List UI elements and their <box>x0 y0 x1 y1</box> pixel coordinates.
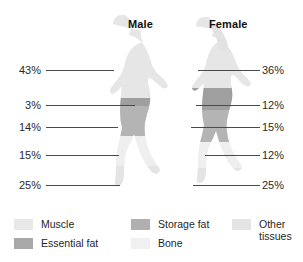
male-percent-other-tissues: 25% <box>7 180 41 191</box>
leader-line-male-muscle <box>46 70 114 71</box>
male-percent-essential-fat: 3% <box>7 100 41 111</box>
legend-item-bone[interactable]: Bone <box>131 237 183 249</box>
leader-line-female-storage-fat <box>191 127 260 128</box>
figure-title-male: Male <box>128 18 153 30</box>
leader-line-female-bone <box>205 155 260 156</box>
figure-title-female: Female <box>209 18 248 30</box>
leader-line-female-muscle <box>198 70 260 71</box>
legend-label-essential-fat: Essential fat <box>41 237 98 249</box>
swatch-bone-icon <box>131 238 150 249</box>
legend-label-muscle: Muscle <box>41 218 74 230</box>
swatch-essential-fat-icon <box>14 238 33 249</box>
male-figure <box>80 0 190 215</box>
legend-label-storage-fat: Storage fat <box>158 218 209 230</box>
swatch-muscle-icon <box>14 219 33 230</box>
body-composition-infographic: Male Female 43% 3% 14% 15% 25% 36% 12% 1… <box>0 0 303 262</box>
legend: Muscle Essential fat Storage fat Bone Ot… <box>0 216 303 262</box>
leader-line-male-essential-fat <box>46 105 135 106</box>
female-percent-bone: 12% <box>262 150 302 161</box>
runner-silhouettes <box>0 0 303 215</box>
swatch-other-tissues-icon <box>232 219 251 230</box>
leader-line-female-essential-fat <box>196 105 260 106</box>
male-percent-storage-fat: 14% <box>7 122 41 133</box>
leader-line-male-storage-fat <box>46 127 118 128</box>
legend-item-muscle[interactable]: Muscle <box>14 218 74 230</box>
female-percent-essential-fat: 12% <box>262 100 302 111</box>
swatch-storage-fat-icon <box>131 219 150 230</box>
female-percent-storage-fat: 15% <box>262 122 302 133</box>
female-percent-other-tissues: 25% <box>262 180 302 191</box>
legend-item-other-tissues[interactable]: Other tissues <box>232 218 292 242</box>
male-percent-muscle: 43% <box>7 65 41 76</box>
male-percent-bone: 15% <box>7 150 41 161</box>
legend-item-storage-fat[interactable]: Storage fat <box>131 218 209 230</box>
legend-label-other-tissues: Other tissues <box>259 218 292 242</box>
leader-line-female-other-tissues <box>193 185 260 186</box>
leader-line-male-other-tissues <box>46 185 120 186</box>
legend-item-essential-fat[interactable]: Essential fat <box>14 237 98 249</box>
female-percent-muscle: 36% <box>262 65 302 76</box>
leader-line-male-bone <box>46 155 119 156</box>
legend-label-bone: Bone <box>158 237 183 249</box>
